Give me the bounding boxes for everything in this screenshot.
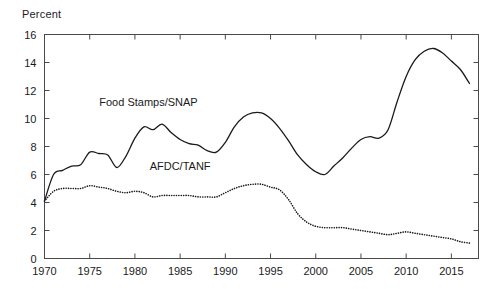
- series-line-1: [45, 48, 470, 201]
- x-tick-label: 2015: [439, 265, 463, 277]
- y-tick-group: 0246810121416: [24, 29, 478, 265]
- y-tick-label: 2: [30, 225, 36, 237]
- y-tick-label: 4: [30, 197, 36, 209]
- line-chart-plot: 0246810121416 19701975198019851990199520…: [0, 0, 503, 289]
- x-tick-label: 1985: [168, 265, 192, 277]
- series-line-2: [45, 184, 470, 243]
- x-tick-group: 1970197519801985199019952000200520102015: [32, 35, 463, 277]
- chart-figure: Percent 0246810121416 197019751980198519…: [0, 0, 503, 289]
- x-tick-label: 1980: [123, 265, 147, 277]
- x-tick-label: 2000: [304, 265, 328, 277]
- x-tick-label: 1975: [77, 265, 101, 277]
- x-tick-label: 1970: [32, 265, 56, 277]
- x-tick-label: 2010: [394, 265, 418, 277]
- y-tick-label: 0: [30, 253, 36, 265]
- x-tick-label: 1995: [258, 265, 282, 277]
- series-annotation-1: Food Stamps/SNAP: [99, 96, 197, 108]
- series-group: [45, 48, 470, 243]
- y-tick-label: 8: [30, 141, 36, 153]
- y-tick-label: 14: [24, 57, 36, 69]
- y-tick-label: 16: [24, 29, 36, 41]
- y-tick-label: 10: [24, 113, 36, 125]
- chart-axes: [45, 35, 479, 259]
- y-tick-label: 6: [30, 169, 36, 181]
- x-tick-label: 1990: [213, 265, 237, 277]
- y-tick-label: 12: [24, 85, 36, 97]
- plot-frame: [45, 35, 479, 259]
- series-label-group: Food Stamps/SNAPAFDC/TANF: [99, 96, 211, 172]
- series-annotation-2: AFDC/TANF: [150, 160, 211, 172]
- x-tick-label: 2005: [349, 265, 373, 277]
